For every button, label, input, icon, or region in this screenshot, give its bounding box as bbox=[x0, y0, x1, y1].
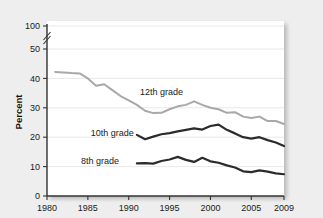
x-tick-label-1995: 1995 bbox=[160, 203, 180, 213]
figure-container: 0102030405010019801985199019952000200520… bbox=[0, 0, 323, 218]
y-tick-label-10: 10 bbox=[30, 162, 40, 172]
x-tick-label-1985: 1985 bbox=[78, 203, 98, 213]
x-tick-label-2000: 2000 bbox=[200, 203, 220, 213]
y-tick-label-100: 100 bbox=[25, 21, 40, 31]
line-chart: 0102030405010019801985199019952000200520… bbox=[0, 0, 323, 218]
x-tick-label-2005: 2005 bbox=[241, 203, 261, 213]
y-axis-title: Percent bbox=[13, 94, 24, 130]
series-line-0 bbox=[55, 72, 284, 124]
y-tick-label-40: 40 bbox=[30, 74, 40, 84]
series-label-1: 10th grade bbox=[91, 128, 134, 138]
series-inline-labels: 12th grade10th grade8th grade bbox=[81, 87, 183, 167]
y-tick-label-50: 50 bbox=[30, 44, 40, 54]
series-label-2: 8th grade bbox=[81, 156, 119, 166]
y-tick-label-0: 0 bbox=[35, 191, 40, 201]
y-axis-title: Percent bbox=[13, 94, 24, 130]
series-label-0: 12th grade bbox=[140, 87, 183, 97]
y-tick-label-30: 30 bbox=[30, 103, 40, 113]
x-tick-label-2009: 2009 bbox=[274, 203, 294, 213]
series-line-2 bbox=[137, 157, 284, 174]
y-tick-label-20: 20 bbox=[30, 132, 40, 142]
x-tick-label-1990: 1990 bbox=[119, 203, 139, 213]
series-line-1 bbox=[137, 125, 284, 146]
x-tick-label-1980: 1980 bbox=[37, 203, 57, 213]
